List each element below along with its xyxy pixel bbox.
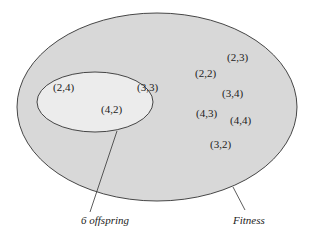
offspring-label: 6 offspring (81, 214, 129, 226)
outer-point: (4,4) (230, 114, 251, 127)
inner-point: (2,4) (53, 81, 74, 94)
outer-point: (3,4) (222, 87, 243, 100)
fitness-leader-line (233, 187, 245, 210)
outer-point: (4,3) (196, 107, 217, 120)
fitness-label: Fitness (232, 214, 265, 226)
inner-point: (4,2) (101, 103, 122, 116)
outer-point: (2,2) (195, 67, 216, 80)
venn-diagram: (2,4) (3,3) (4,2) (2,3) (2,2) (3,4) (4,3… (0, 0, 309, 241)
inner-point: (3,3) (137, 81, 158, 94)
outer-point: (2,3) (227, 51, 248, 64)
outer-point: (3,2) (210, 138, 231, 151)
